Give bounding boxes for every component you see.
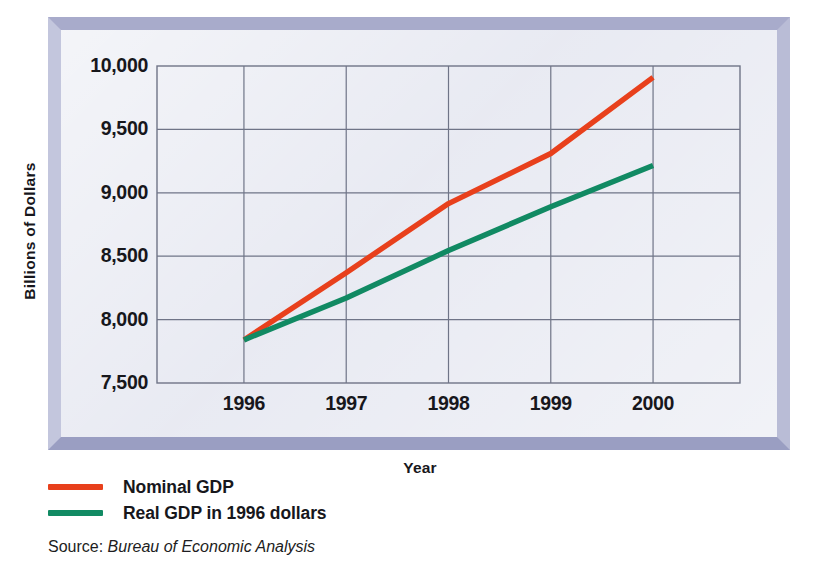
legend-item-label: Real GDP in 1996 dollars xyxy=(123,503,326,524)
legend-color-swatch xyxy=(48,510,103,516)
source-name: Bureau of Economic Analysis xyxy=(108,538,316,555)
gridlines xyxy=(157,66,740,383)
y-axis-tick-label-text: 9,500 xyxy=(101,117,148,140)
x-axis-tick-label: 1996 xyxy=(223,392,265,415)
y-axis-tick-label-text: 8,500 xyxy=(101,244,148,267)
y-axis-title: Billions of Dollars xyxy=(21,121,39,341)
x-axis-tick-labels: 19961997199819992000 xyxy=(0,392,815,422)
chart-legend: Nominal GDPReal GDP in 1996 dollars xyxy=(48,474,548,526)
legend-item: Real GDP in 1996 dollars xyxy=(48,500,548,526)
y-axis-tick-label-text: 9,000 xyxy=(101,181,148,204)
legend-item: Nominal GDP xyxy=(48,474,548,500)
y-axis-tick-label-text: 8,000 xyxy=(101,308,148,331)
y-axis-tick-label-text: 10,000 xyxy=(90,54,148,77)
x-axis-tick-label: 2000 xyxy=(632,392,674,415)
x-axis-tick-label: 1999 xyxy=(530,392,572,415)
legend-color-swatch xyxy=(48,484,103,490)
source-note: Source: Bureau of Economic Analysis xyxy=(48,538,315,556)
x-axis-tick-label: 1998 xyxy=(427,392,469,415)
x-axis-tick-label: 1997 xyxy=(325,392,367,415)
y-axis-tick-label-text: 7,500 xyxy=(101,371,148,394)
legend-item-label: Nominal GDP xyxy=(123,477,234,498)
source-prefix: Source: xyxy=(48,538,103,555)
